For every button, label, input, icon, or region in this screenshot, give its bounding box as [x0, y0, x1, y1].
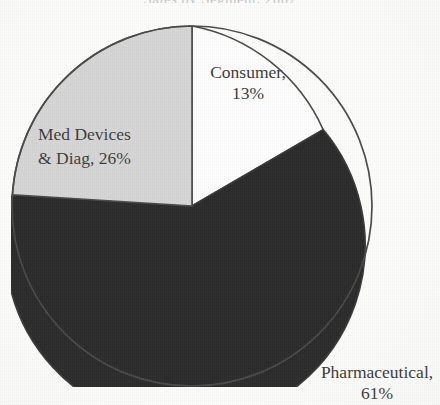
slice-label-consumer: Consumer, 13%	[196, 62, 300, 104]
pie-svg	[11, 25, 373, 387]
pie-slice-med-devices[interactable]	[12, 26, 192, 206]
pie-chart-figure: Sales by Segment, 2007 Consumer, 13% Med…	[0, 0, 440, 405]
slice-label-pharmaceutical-value: 61%	[316, 383, 438, 404]
slice-label-consumer-value: 13%	[196, 83, 300, 104]
pie-chart-graphic	[11, 25, 373, 387]
slice-label-consumer-name: Consumer,	[210, 62, 286, 82]
slice-label-med-devices-value: & Diag, 26%	[38, 146, 174, 170]
slice-label-pharmaceutical: Pharmaceutical, 61%	[316, 362, 438, 404]
slice-label-pharmaceutical-name: Pharmaceutical,	[321, 362, 433, 382]
cropped-title-remnant: Sales by Segment, 2007	[0, 0, 440, 3]
slice-label-med-devices-name: Med Devices	[38, 124, 131, 144]
slice-label-med-devices: Med Devices & Diag, 26%	[38, 122, 174, 170]
